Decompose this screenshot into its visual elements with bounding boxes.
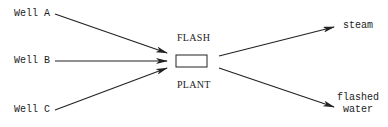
steam-label: steam [343, 20, 373, 32]
arrow-flashed-water [219, 68, 334, 107]
arrow-steam [219, 27, 334, 56]
arrow-well-a [55, 14, 167, 53]
well-a-label: Well A [14, 8, 50, 20]
well-b-label: Well B [14, 55, 50, 67]
flash-plant-box [176, 55, 207, 67]
arrow-well-c [55, 68, 167, 110]
flashed-label: flashed [337, 92, 379, 104]
flash-label: FLASH [177, 32, 210, 44]
plant-label: PLANT [177, 79, 211, 91]
water-label: water [343, 104, 373, 116]
well-c-label: Well C [14, 104, 50, 116]
flow-diagram [0, 0, 388, 127]
